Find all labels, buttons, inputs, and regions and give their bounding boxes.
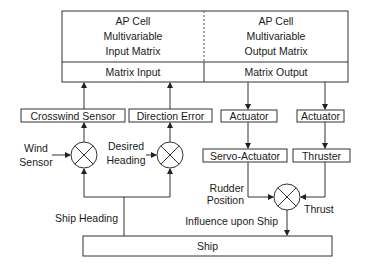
svg-text:Crosswind Sensor: Crosswind Sensor [30, 110, 116, 122]
desired-heading-label-1: Desired [108, 140, 144, 152]
servo-actuator-box: Servo-Actuator [203, 149, 287, 162]
svg-text:Thruster: Thruster [302, 150, 342, 162]
wind-sensor-label-2: Sensor [19, 156, 53, 168]
matrix-output-label: Matrix Output [244, 66, 307, 78]
influence-summing-junction-icon [274, 184, 300, 210]
actuator-box-2: Actuator [297, 110, 344, 122]
thruster-box: Thruster [293, 149, 350, 162]
heading-summing-junction-icon [157, 142, 183, 168]
ship-autopilot-diagram: AP Cell Multivariable Input Matrix Matri… [0, 0, 368, 269]
thrust-label: Thrust [304, 203, 334, 215]
direction-error-box: Direction Error [129, 109, 212, 122]
svg-text:Ship: Ship [197, 240, 218, 252]
matrix-input-label: Matrix Input [106, 66, 161, 78]
svg-text:Servo-Actuator: Servo-Actuator [210, 150, 281, 162]
wind-summing-junction-icon [71, 142, 97, 168]
input-matrix-title-2: Multivariable [104, 30, 163, 42]
influence-upon-ship-label: Influence upon Ship [185, 215, 278, 227]
desired-heading-label-2: Heading [106, 154, 145, 166]
arrow-rudder-position [248, 162, 273, 197]
ship-box: Ship [83, 236, 332, 256]
svg-text:Actuator: Actuator [301, 110, 341, 122]
svg-text:Direction Error: Direction Error [137, 110, 205, 122]
input-matrix-title-3: Input Matrix [106, 45, 162, 57]
output-matrix-title-1: AP Cell [259, 15, 294, 27]
output-matrix-title-3: Output Matrix [244, 45, 308, 57]
actuator-box-1: Actuator [221, 110, 277, 122]
rudder-position-label-2: Position [207, 194, 245, 206]
ap-cell-block: AP Cell Multivariable Input Matrix Matri… [62, 11, 348, 82]
output-matrix-title-2: Multivariable [247, 30, 306, 42]
wind-sensor-label-1: Wind [24, 142, 48, 154]
svg-text:Actuator: Actuator [229, 110, 269, 122]
rudder-position-label-1: Rudder [210, 182, 245, 194]
input-matrix-title-1: AP Cell [116, 15, 151, 27]
arrow-thrust [301, 162, 325, 197]
crosswind-sensor-box: Crosswind Sensor [21, 109, 125, 122]
ship-heading-label: Ship Heading [55, 212, 118, 224]
